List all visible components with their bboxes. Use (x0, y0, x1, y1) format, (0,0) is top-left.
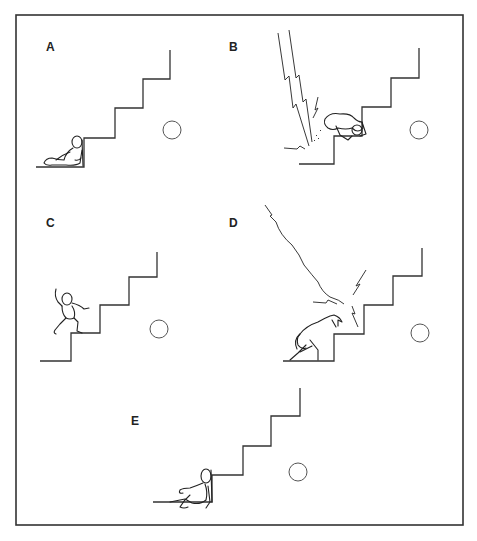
outer-frame (16, 15, 463, 525)
sitting-person-icon (44, 136, 83, 166)
staircase (40, 252, 157, 361)
panel-b: B (229, 30, 428, 164)
lightning-bolt-icon (265, 205, 366, 327)
staircase (36, 50, 170, 167)
panel-label-b: B (229, 40, 238, 54)
ball-icon (410, 121, 428, 139)
staircase (299, 48, 419, 164)
panel-label-c: C (46, 216, 55, 230)
ball-icon (289, 463, 307, 481)
panel-label-e: E (131, 414, 139, 428)
panel-d: D (229, 205, 429, 361)
panel-e: E (131, 388, 307, 508)
lightning-bolt-icon (278, 30, 321, 149)
panel-label-a: A (46, 40, 55, 54)
ball-icon (411, 324, 429, 342)
staircase (153, 388, 300, 502)
ball-icon (150, 320, 168, 338)
panel-label-d: D (229, 216, 238, 230)
illustration: A B C (0, 0, 477, 541)
panel-a: A (36, 40, 181, 167)
panel-c: C (40, 216, 168, 361)
ball-icon (163, 121, 181, 139)
climbing-person-icon (54, 289, 89, 334)
